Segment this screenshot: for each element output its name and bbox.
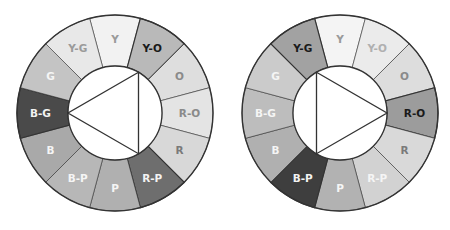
- segment-label-r-o: R-O: [404, 107, 425, 119]
- segment-label-g: G: [46, 70, 55, 82]
- segment-label-g: G: [271, 70, 280, 82]
- segment-label-y-o: Y-O: [367, 42, 387, 54]
- inner-circle: [293, 66, 387, 160]
- segment-label-r: R: [175, 144, 183, 156]
- segment-label-y-g: Y-G: [292, 42, 312, 54]
- color-wheel-diagram: YY-OOR-ORR-PPB-PBB-GGY-G YY-OOR-ORR-PPB-…: [0, 0, 450, 230]
- segment-label-y-o: Y-O: [142, 42, 162, 54]
- segment-label-p: P: [111, 182, 119, 194]
- segment-label-b-p: B-P: [293, 172, 313, 184]
- segment-label-o: O: [400, 70, 409, 82]
- segment-label-b-p: B-P: [68, 172, 88, 184]
- segment-label-b-g: B-G: [30, 107, 51, 119]
- segment-label-y: Y: [110, 33, 119, 45]
- segment-label-r-o: R-O: [179, 107, 200, 119]
- segment-label-r-p: R-P: [142, 172, 162, 184]
- segment-label-r: R: [400, 144, 408, 156]
- segment-label-b: B: [46, 144, 54, 156]
- segment-label-p: P: [336, 182, 344, 194]
- segment-label-r-p: R-P: [367, 172, 387, 184]
- diagram-canvas: YY-OOR-ORR-PPB-PBB-GGY-G YY-OOR-ORR-PPB-…: [0, 0, 450, 230]
- segment-label-y-g: Y-G: [67, 42, 87, 54]
- segment-label-o: O: [175, 70, 184, 82]
- segment-label-y: Y: [335, 33, 344, 45]
- segment-label-b: B: [271, 144, 279, 156]
- color-wheel-right: YY-OOR-ORR-PPB-PBB-GGY-G: [242, 15, 438, 211]
- segment-label-b-g: B-G: [255, 107, 276, 119]
- inner-circle: [68, 66, 162, 160]
- color-wheel-left: YY-OOR-ORR-PPB-PBB-GGY-G: [17, 15, 213, 211]
